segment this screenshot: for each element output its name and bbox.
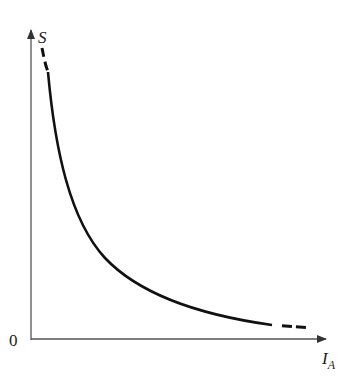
x-axis-label-sub: A [327,358,336,372]
diagram: S 0 IA [0,0,358,379]
curve-dashed-start [42,48,48,72]
curve-solid [48,72,272,325]
y-axis-label: S [38,28,47,47]
x-axis-label: IA [321,349,336,372]
origin-label: 0 [9,331,18,350]
curve-dashed-end [272,325,312,328]
